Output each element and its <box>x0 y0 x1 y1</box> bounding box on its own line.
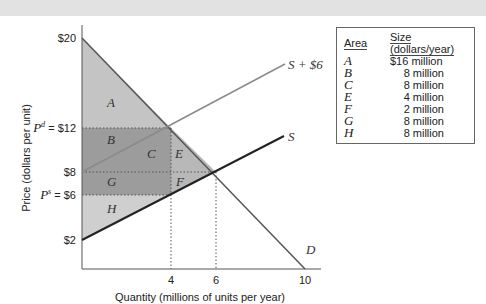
legend-row: C8 million <box>344 79 470 91</box>
area-label-b: B <box>107 132 115 147</box>
x-tick-4: 4 <box>168 274 174 286</box>
area-label-g: G <box>107 174 117 189</box>
legend-row: A$16 million <box>344 55 470 67</box>
area-g <box>82 172 171 195</box>
legend-row: E4 million <box>344 91 470 103</box>
y-axis-title: Price (dollars per unit) <box>20 104 32 212</box>
legend-row: F2 million <box>344 103 470 115</box>
y-tick-12: Pd = $12 <box>32 120 76 135</box>
legend-row: G8 million <box>344 115 470 127</box>
label-s-plus-6: S + $6 <box>288 57 323 72</box>
y-tick-2: $2 <box>64 234 76 246</box>
legend-row: B8 million <box>344 67 470 79</box>
y-tick-8: $8 <box>64 166 76 178</box>
label-d: D <box>305 242 316 257</box>
area-label-c: C <box>147 146 156 161</box>
x-tick-10: 10 <box>299 274 311 286</box>
area-label-h: H <box>106 201 117 216</box>
area-label-a: A <box>106 95 115 110</box>
legend-header-size: Size (dollars/year) <box>378 31 470 55</box>
label-s: S <box>288 129 295 144</box>
area-size-legend: Area Size (dollars/year) A$16 million B8… <box>336 27 475 144</box>
area-label-f: F <box>175 174 185 189</box>
area-label-e: E <box>174 146 183 161</box>
x-tick-6: 6 <box>213 274 219 286</box>
y-tick-20: $20 <box>58 32 76 44</box>
x-axis-title: Quantity (millions of units per year) <box>115 291 285 303</box>
y-tick-6: Ps = $6 <box>39 187 76 202</box>
legend-header-area: Area <box>344 31 378 55</box>
legend-row: H8 million <box>344 127 470 139</box>
